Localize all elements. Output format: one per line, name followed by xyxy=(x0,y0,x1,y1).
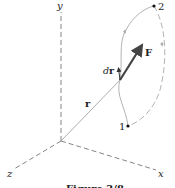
axes xyxy=(14,12,156,170)
displacement-vector xyxy=(119,68,121,80)
solid-path-curve xyxy=(119,6,154,126)
point-2-label: 2 xyxy=(158,1,164,12)
work-diagram: y z x r F d r 1 2 Figure 3/8 xyxy=(0,0,175,188)
point-1-label: 1 xyxy=(119,121,125,132)
figure-caption: Figure 3/8 xyxy=(66,183,124,188)
position-vector-label: r xyxy=(85,98,91,109)
curve-direction-arrow xyxy=(124,31,125,34)
position-vector xyxy=(61,80,120,141)
point-2 xyxy=(152,4,155,7)
x-axis-label: x xyxy=(158,168,164,179)
y-axis-label: y xyxy=(56,0,63,11)
force-vector xyxy=(120,45,142,80)
force-label: F xyxy=(145,47,152,58)
z-axis-label: z xyxy=(6,168,13,179)
x-axis xyxy=(61,141,156,170)
point-1 xyxy=(126,124,129,127)
dashed-path-curve xyxy=(128,6,165,126)
z-axis xyxy=(14,141,61,169)
displacement-label-r: r xyxy=(109,65,115,76)
